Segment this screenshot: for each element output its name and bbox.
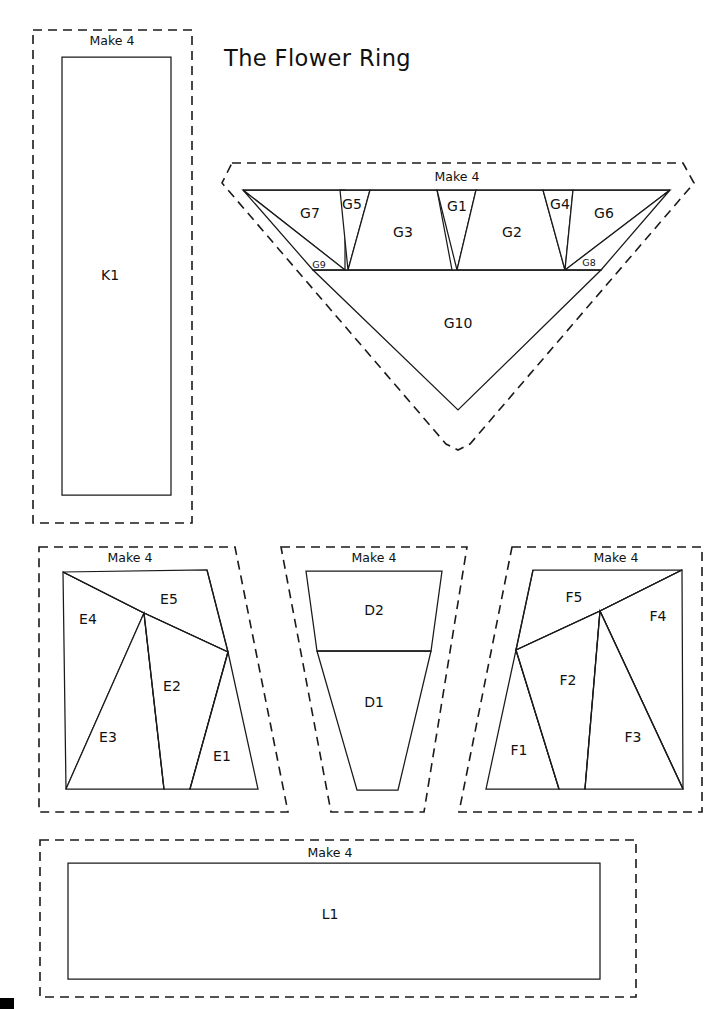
piece-label-g3: G3 (393, 224, 413, 240)
piece-label-l1: L1 (322, 906, 339, 922)
piece-label-e2: E2 (163, 678, 181, 694)
blocks-layer: K1Make 4G7G9G5G3G1G2G4G6G8G10Make 4E4E5E… (33, 30, 702, 997)
piece-label-g10: G10 (444, 315, 473, 331)
pattern-block-d: D2D1Make 4 (281, 547, 467, 812)
corner-registration-mark (0, 998, 14, 1009)
piece-label-g7: G7 (300, 205, 320, 221)
pattern-block-g: G7G9G5G3G1G2G4G6G8G10Make 4 (222, 163, 694, 450)
pattern-block-k: K1Make 4 (33, 30, 192, 523)
piece-label-g2: G2 (502, 224, 522, 240)
page-title: The Flower Ring (223, 45, 411, 71)
pattern-block-l: L1Make 4 (40, 840, 636, 997)
piece-label-e3: E3 (99, 729, 117, 745)
make-quantity-label-f: Make 4 (594, 550, 639, 565)
pattern-sheet: K1Make 4G7G9G5G3G1G2G4G6G8G10Make 4E4E5E… (0, 0, 726, 1009)
piece-label-g9: G9 (312, 259, 325, 270)
make-quantity-label-g: Make 4 (435, 169, 480, 184)
piece-label-k1: K1 (101, 267, 119, 283)
make-quantity-label-e: Make 4 (108, 550, 153, 565)
piece-d1 (317, 651, 431, 790)
pattern-canvas: K1Make 4G7G9G5G3G1G2G4G6G8G10Make 4E4E5E… (0, 0, 726, 1009)
piece-label-d1: D1 (364, 694, 384, 710)
piece-label-f5: F5 (566, 589, 583, 605)
make-quantity-label-d: Make 4 (352, 550, 397, 565)
piece-label-g6: G6 (594, 205, 614, 221)
piece-label-f3: F3 (625, 729, 642, 745)
piece-label-g5: G5 (342, 196, 362, 212)
make-quantity-label-k: Make 4 (90, 33, 135, 48)
piece-label-e4: E4 (79, 611, 97, 627)
piece-label-g8: G8 (582, 257, 595, 268)
piece-label-e1: E1 (213, 748, 231, 764)
piece-label-f2: F2 (560, 672, 577, 688)
piece-label-g4: G4 (550, 196, 570, 212)
piece-label-e5: E5 (160, 591, 178, 607)
piece-label-d2: D2 (364, 602, 384, 618)
make-quantity-label-l: Make 4 (308, 845, 353, 860)
piece-label-g1: G1 (447, 198, 467, 214)
piece-label-f1: F1 (511, 742, 528, 758)
piece-label-f4: F4 (650, 608, 667, 624)
pattern-block-e: E4E5E3E2E1Make 4 (39, 547, 288, 812)
pattern-block-f: F5F4F1F2F3Make 4 (459, 547, 702, 812)
